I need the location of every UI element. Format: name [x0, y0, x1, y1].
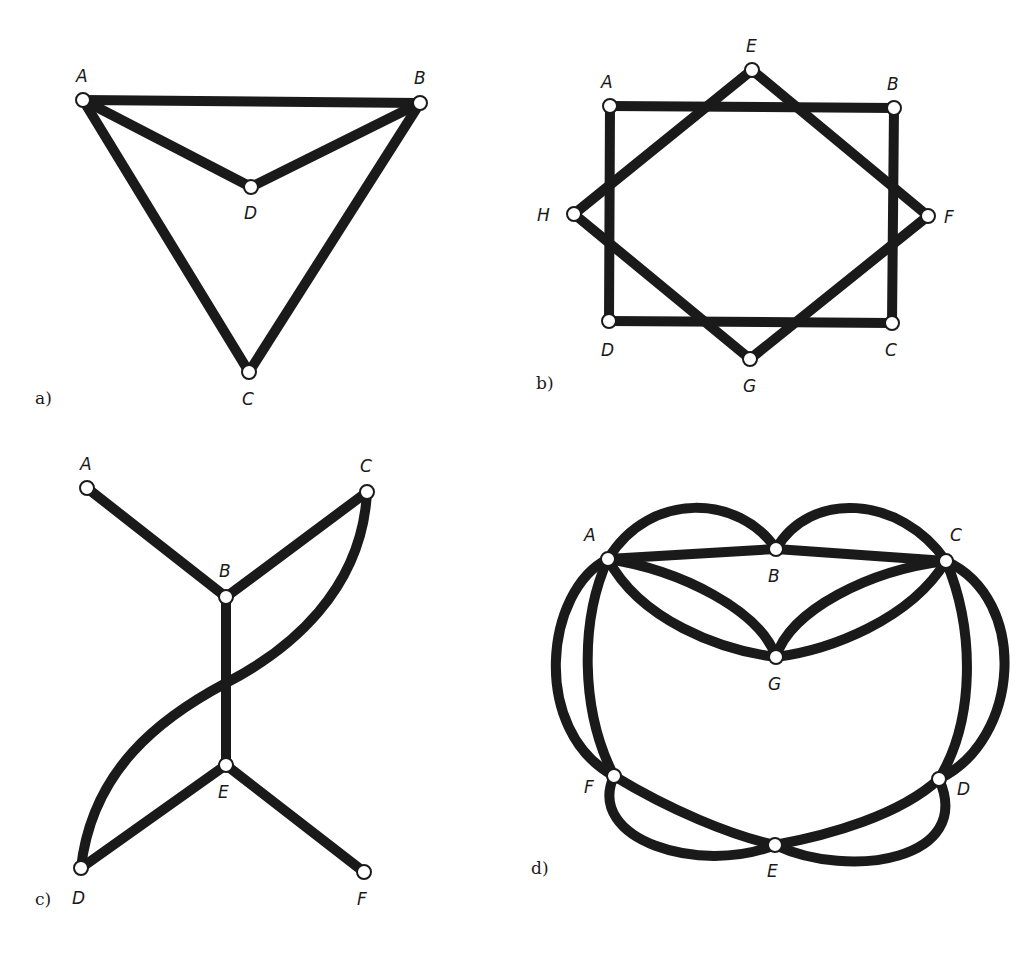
vertex-f: [607, 769, 621, 783]
edge-e-f: [752, 70, 928, 216]
vertex-label-b: B: [219, 561, 231, 581]
vertex-c: [360, 485, 374, 499]
panel-b-graph: ABCDEFGHb): [536, 36, 954, 396]
vertex-b: [413, 96, 427, 110]
vertex-d: [932, 772, 946, 786]
graph-figure: ABDCa) ABCDEFGHb) ABCEDFc) ABCGFDEd): [0, 0, 1032, 956]
vertex-label-c: C: [242, 389, 254, 409]
edge-b-c: [776, 549, 946, 561]
panel-c-graph: ABCEDFc): [35, 454, 374, 909]
edge-e-d: [81, 765, 226, 868]
vertex-e: [219, 758, 233, 772]
vertex-label-a: A: [79, 454, 92, 474]
panel-label-d: d): [531, 858, 549, 878]
edges-group: [574, 70, 928, 359]
vertex-label-e: E: [218, 782, 229, 802]
edge-a-b: [610, 106, 894, 108]
vertex-f: [921, 209, 935, 223]
vertex-label-f: F: [584, 777, 594, 797]
vertex-h: [567, 207, 581, 221]
vertex-a: [603, 99, 617, 113]
vertex-label-d: D: [244, 203, 257, 223]
vertex-e: [768, 838, 782, 852]
vertex-d: [74, 861, 88, 875]
edge-c-g: [776, 561, 946, 657]
edge-c-d: [939, 561, 967, 779]
vertex-b: [887, 101, 901, 115]
panel-d-graph: ABCGFDEd): [531, 508, 1005, 881]
panel-label-a: a): [35, 388, 52, 408]
vertex-label-a: A: [583, 525, 596, 545]
vertex-label-f: F: [944, 207, 954, 227]
vertex-f: [357, 865, 371, 879]
vertex-a: [601, 552, 615, 566]
vertex-b: [219, 590, 233, 604]
vertex-label-e: E: [746, 36, 757, 56]
vertex-label-e: E: [767, 861, 778, 881]
vertex-label-c: C: [950, 525, 962, 545]
panel-label-b: b): [536, 373, 554, 393]
edge-d-a: [609, 106, 610, 321]
vertex-d: [602, 314, 616, 328]
edge-a-b: [83, 100, 420, 103]
vertex-label-g: G: [743, 376, 756, 396]
edge-e-f: [226, 765, 364, 872]
edge-a-g: [608, 559, 776, 657]
vertex-label-a: A: [75, 66, 88, 86]
vertex-c: [939, 554, 953, 568]
vertex-label-c: C: [885, 340, 897, 360]
edges-group: [81, 488, 367, 872]
vertex-c: [242, 365, 256, 379]
edge-c-d: [81, 492, 367, 868]
edge-a-f: [588, 559, 614, 776]
edge-a-b: [608, 549, 776, 559]
vertex-label-d: D: [957, 779, 970, 799]
edge-a-b: [87, 488, 226, 597]
edge-c-g: [776, 561, 946, 657]
vertex-c: [885, 316, 899, 330]
edge-e-d: [775, 779, 939, 845]
vertex-g: [769, 650, 783, 664]
vertex-e: [745, 63, 759, 77]
vertex-a: [76, 93, 90, 107]
vertex-label-a: A: [600, 72, 613, 92]
edge-a-g: [608, 559, 776, 657]
vertex-label-b: B: [414, 68, 426, 88]
vertex-label-h: H: [537, 205, 550, 225]
panel-label-c: c): [35, 889, 51, 909]
panel-a-graph: ABDCa): [35, 66, 427, 409]
vertex-d: [244, 180, 258, 194]
vertex-label-c: C: [360, 456, 372, 476]
vertex-label-d: D: [601, 340, 614, 360]
vertex-a: [80, 481, 94, 495]
edge-f-g: [750, 216, 928, 359]
vertex-label-g: G: [768, 674, 781, 694]
vertex-b: [769, 542, 783, 556]
vertex-label-d: D: [72, 888, 85, 908]
edge-c-d: [609, 321, 892, 323]
edge-b-c: [892, 108, 894, 323]
vertex-g: [743, 352, 757, 366]
edges-group: [83, 100, 420, 372]
vertex-label-b: B: [768, 566, 780, 586]
vertex-label-b: B: [887, 74, 899, 94]
edge-g-h: [574, 214, 750, 359]
vertex-label-f: F: [357, 889, 367, 909]
